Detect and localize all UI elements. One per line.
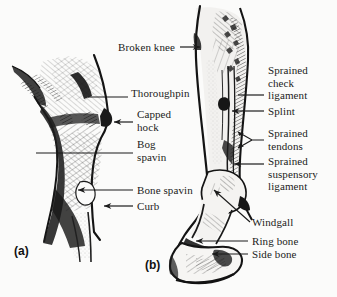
- label-bog-spavin: Bog spavin: [137, 138, 166, 163]
- label-bone-spavin: Bone spavin: [137, 184, 193, 197]
- label-ring-bone: Ring bone: [252, 235, 298, 248]
- label-sprained-tendons: Sprained tendons: [268, 127, 308, 152]
- label-windgall: Windgall: [252, 216, 293, 229]
- label-splint: Splint: [268, 105, 295, 118]
- label-sprained-suspensory-ligament: Sprained suspensory ligament: [268, 155, 318, 193]
- hock-drawing: [12, 55, 112, 262]
- label-sprained-check-ligament: Sprained check ligament: [268, 64, 308, 102]
- anatomy-figure: Thoroughpin Capped hock Bog spavin Bone …: [0, 0, 337, 297]
- panel-label-a: (a): [14, 244, 29, 258]
- label-broken-knee: Broken knee: [118, 41, 175, 54]
- panel-label-b: (b): [145, 258, 160, 272]
- label-curb: Curb: [137, 200, 159, 213]
- label-thoroughpin: Thoroughpin: [131, 87, 190, 100]
- label-side-bone: Side bone: [252, 248, 297, 261]
- label-capped-hock: Capped hock: [137, 108, 171, 133]
